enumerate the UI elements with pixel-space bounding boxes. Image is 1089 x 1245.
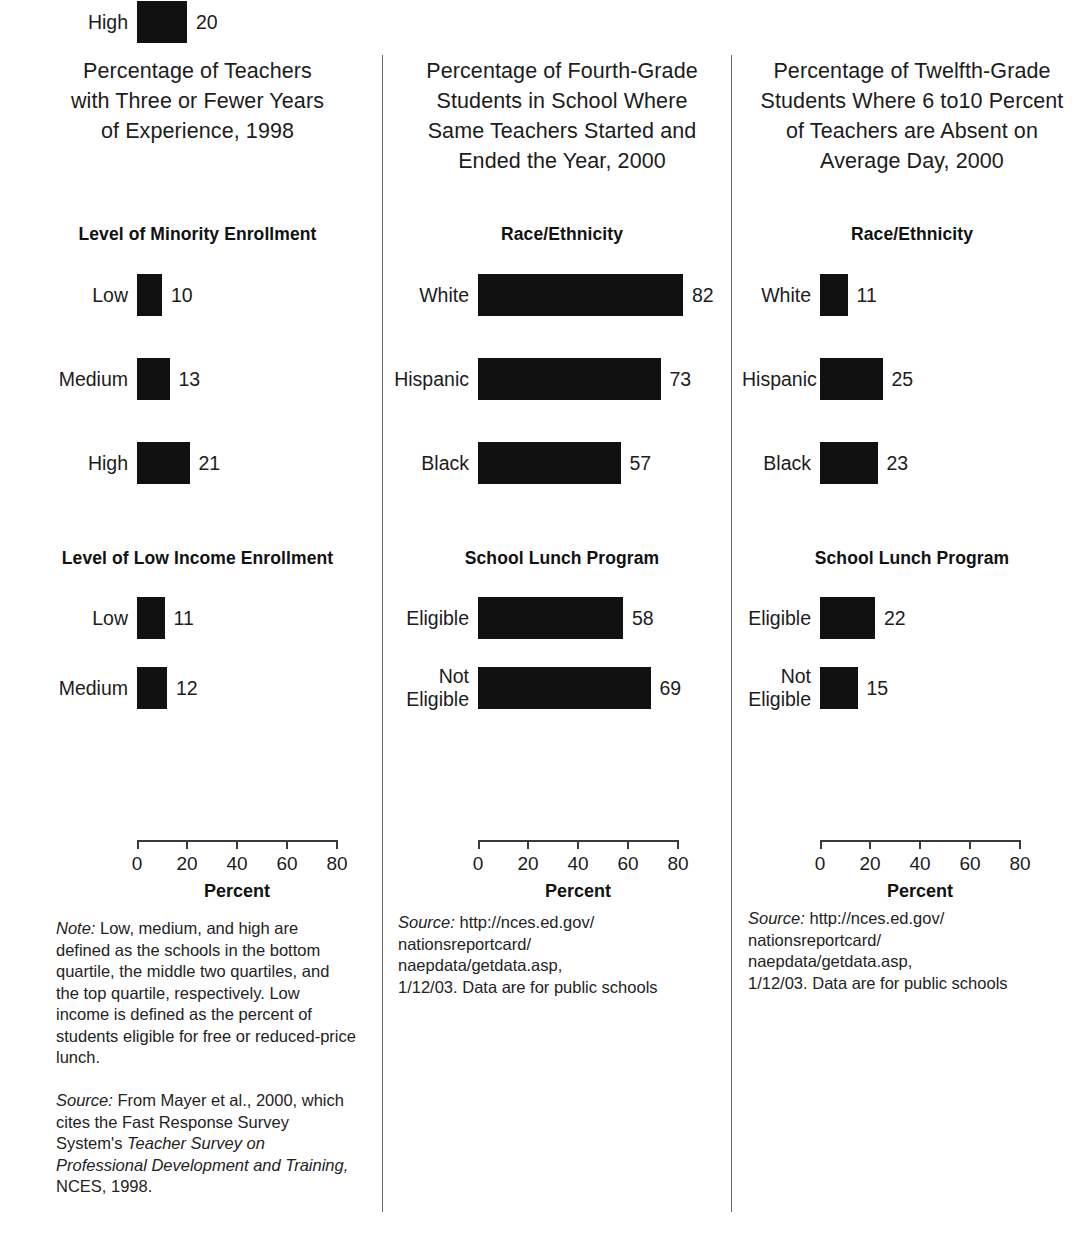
bar-category-label: Low [40, 596, 137, 640]
axis-tick-label: 20 [517, 853, 538, 875]
axis-tick-label: 80 [326, 853, 347, 875]
section-heading-race-ethnicity: Race/Ethnicity [742, 224, 1082, 245]
bar-value-label: 13 [170, 357, 201, 401]
bar [478, 667, 651, 709]
axis-tick [478, 840, 480, 849]
axis-tick [627, 840, 629, 849]
bar-value-label: 57 [621, 441, 652, 485]
bar-value-label: 12 [167, 666, 198, 710]
axis-tick-label: 40 [567, 853, 588, 875]
axis-tick [969, 840, 971, 849]
bar-category-label: Black [742, 441, 820, 485]
bar-category-label: Hispanic [742, 357, 820, 401]
bar-category-label: Black [392, 441, 478, 485]
panel-title: Percentage of Teachers with Three or Few… [20, 56, 375, 146]
axis-tick-label: 40 [909, 853, 930, 875]
bar-row: Black57 [392, 441, 691, 485]
axis-tick [137, 840, 139, 849]
bar-category-label: High [40, 441, 137, 485]
figure-page: Percentage of Teachers with Three or Few… [0, 0, 1089, 1245]
x-axis: 020406080 [137, 840, 337, 886]
bar [478, 597, 623, 639]
bar-value-label: 22 [875, 596, 906, 640]
axis-title: Percent [137, 881, 337, 902]
bar-row: Low10 [40, 273, 232, 317]
bar-value-label: 20 [187, 0, 218, 44]
bar-row: Not Eligible15 [742, 666, 928, 710]
bar-value-label: 82 [683, 273, 714, 317]
axis-tick-label: 0 [815, 853, 826, 875]
axis-tick [527, 840, 529, 849]
bar-category-label: Not Eligible [392, 666, 478, 710]
axis-tick [919, 840, 921, 849]
bar-value-label: 10 [162, 273, 193, 317]
bar-category-label: White [392, 273, 478, 317]
bar-value-label: 73 [661, 357, 692, 401]
figure-source: Source: http://nces.ed.gov/ nationsrepor… [398, 912, 698, 998]
axis-tick-label: 40 [226, 853, 247, 875]
bar-category-label: Low [40, 273, 137, 317]
axis-tick [286, 840, 288, 849]
axis-tick [577, 840, 579, 849]
axis-tick [336, 840, 338, 849]
bar-category-label: Medium [40, 357, 137, 401]
bar [820, 358, 883, 400]
axis-tick-label: 20 [859, 853, 880, 875]
bar-value-label: 23 [878, 441, 909, 485]
bar-row: Medium13 [40, 357, 240, 401]
axis-tick-label: 80 [1009, 853, 1030, 875]
bar-category-label: Hispanic [392, 357, 478, 401]
bar-category-label: Eligible [392, 596, 478, 640]
bar [478, 358, 661, 400]
bar-value-label: 11 [848, 273, 877, 317]
section-heading-low-income-enrollment: Level of Low Income Enrollment [20, 548, 375, 569]
x-axis: 020406080 [478, 840, 678, 886]
section-heading-school-lunch-program: School Lunch Program [392, 548, 732, 569]
bar-category-label: Not Eligible [742, 666, 820, 710]
bar-category-label: High [40, 0, 137, 44]
axis-tick [1019, 840, 1021, 849]
bar [137, 274, 162, 316]
section-heading-race-ethnicity: Race/Ethnicity [392, 224, 732, 245]
axis-tick [186, 840, 188, 849]
axis-tick [677, 840, 679, 849]
bar [820, 667, 858, 709]
bar [137, 597, 165, 639]
panel-title: Percentage of Twelfth-Grade Students Whe… [742, 56, 1082, 176]
bar-row: Medium12 [40, 666, 237, 710]
axis-tick-label: 0 [132, 853, 143, 875]
bar-row: Hispanic25 [742, 357, 953, 401]
bar [820, 442, 878, 484]
bar [137, 442, 190, 484]
bar-row: Low11 [40, 596, 235, 640]
axis-tick [820, 840, 822, 849]
axis-tick [236, 840, 238, 849]
bar-row: White82 [392, 273, 753, 317]
bar-row: Hispanic73 [392, 357, 731, 401]
axis-tick-label: 60 [617, 853, 638, 875]
bar [137, 667, 167, 709]
bar-category-label: White [742, 273, 820, 317]
bar [478, 274, 683, 316]
panel-title: Percentage of Fourth-Grade Students in S… [392, 56, 732, 176]
bar [137, 1, 187, 43]
axis-tick [869, 840, 871, 849]
axis-title: Percent [820, 881, 1020, 902]
x-axis: 020406080 [820, 840, 1020, 886]
axis-tick-label: 20 [176, 853, 197, 875]
axis-title: Percent [478, 881, 678, 902]
bar-value-label: 21 [190, 441, 221, 485]
bar [137, 358, 170, 400]
bar-category-label: Eligible [742, 596, 820, 640]
bar-category-label: Medium [40, 666, 137, 710]
axis-tick-label: 0 [473, 853, 484, 875]
column-divider-1 [382, 55, 383, 1212]
bar-row: Eligible22 [742, 596, 945, 640]
section-heading-minority-enrollment: Level of Minority Enrollment [20, 224, 375, 245]
bar [478, 442, 621, 484]
bar-value-label: 15 [858, 666, 889, 710]
figure-source: Source: From Mayer et al., 2000, which c… [56, 1090, 356, 1198]
bar-value-label: 58 [623, 596, 654, 640]
bar [820, 597, 875, 639]
bar-row: High21 [40, 441, 260, 485]
